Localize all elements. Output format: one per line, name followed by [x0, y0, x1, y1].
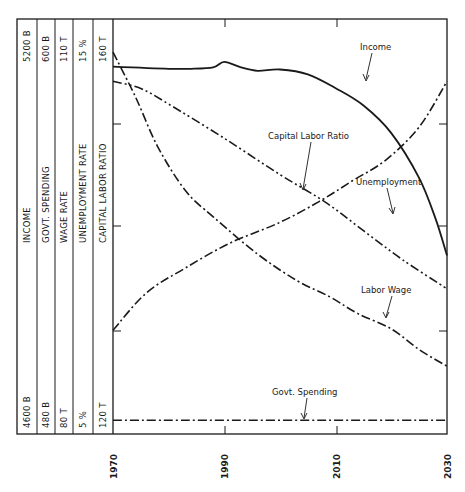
- annotation-capital-labor-ratio: Capital Labor Ratio: [268, 131, 349, 141]
- annotation-govt-spending: Govt. Spending: [272, 387, 338, 397]
- scale-labels: 4600 BINCOME5200 B480 BGOVT. SPENDING600…: [22, 30, 108, 428]
- series-labor-wage: [113, 52, 447, 366]
- x-tick-label: 2030: [443, 454, 453, 479]
- scale-max-label: 160 T: [98, 36, 108, 62]
- scale-name-label: UNEMPLOYMENT RATE: [78, 143, 88, 243]
- arrow-icon: [386, 296, 392, 317]
- scale-min-label: 480 B: [41, 402, 51, 428]
- scale-min-label: 4600 B: [22, 396, 32, 428]
- scale-name-label: GOVT. SPENDING: [41, 166, 51, 243]
- arrow-icon: [303, 142, 311, 189]
- scale-max-label: 110 T: [59, 36, 69, 62]
- scale-min-label: 5 %: [78, 411, 88, 428]
- scale-max-label: 5200 B: [22, 30, 32, 62]
- x-tick-label: 2010: [332, 454, 342, 479]
- chart: 4600 BINCOME5200 B480 BGOVT. SPENDING600…: [0, 0, 465, 492]
- scale-max-label: 15 %: [78, 39, 88, 62]
- arrowhead-icon: [383, 312, 389, 318]
- series-income: [113, 62, 447, 256]
- scale-min-label: 80 T: [59, 408, 69, 428]
- scale-name-label: WAGE RATE: [59, 191, 69, 243]
- axis-ticks: [113, 19, 447, 434]
- scale-name-label: CAPITAL LABOR RATIO: [98, 143, 108, 243]
- series-lines: [113, 52, 447, 420]
- scale-max-label: 600 B: [41, 36, 51, 62]
- x-axis-tick-labels: 1970199020102030: [109, 454, 453, 479]
- scale-name-label: INCOME: [22, 207, 32, 243]
- x-tick-label: 1970: [109, 454, 119, 479]
- x-tick-label: 1990: [220, 454, 230, 479]
- annotation-unemployment: Unemployment: [356, 177, 422, 187]
- annotation-labor-wage: Labor Wage: [361, 285, 411, 295]
- annotations: Income Capital Labor Ratio Unemployment …: [268, 42, 422, 419]
- scale-min-label: 120 T: [98, 402, 108, 428]
- annotation-income: Income: [360, 42, 391, 52]
